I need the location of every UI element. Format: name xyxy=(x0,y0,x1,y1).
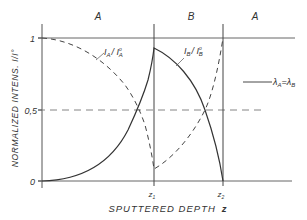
series-ia-label: IA/ IoA xyxy=(104,46,123,58)
x-tick-label-z1: z1 xyxy=(148,190,156,200)
region-label-b: B xyxy=(188,11,195,22)
y-tick-label-0: 0 xyxy=(30,177,35,187)
y-tick-label-05: 0,5 xyxy=(24,106,38,116)
x-axis-title: SPUTTERED DEPTHz xyxy=(108,203,227,214)
y-axis-title: NORMALIZED INTENS. I/I° xyxy=(10,49,20,167)
series-ib-curve xyxy=(42,48,223,181)
depth-profile-chart: A B A 1 0,5 0 z1 z2 SPUTTERED DEPTHz NOR… xyxy=(0,0,307,220)
annotation-label: λA=λB xyxy=(272,77,295,88)
y-tick-label-1: 1 xyxy=(30,34,35,44)
region-label-a2: A xyxy=(251,11,259,22)
series-ia-curve xyxy=(42,38,223,169)
region-label-a1: A xyxy=(94,11,102,22)
series-ib-leader xyxy=(176,58,184,66)
series-ia-leader xyxy=(96,53,104,60)
series-ib-label: IB/ IoB xyxy=(184,45,203,57)
x-tick-label-z2: z2 xyxy=(217,190,225,200)
